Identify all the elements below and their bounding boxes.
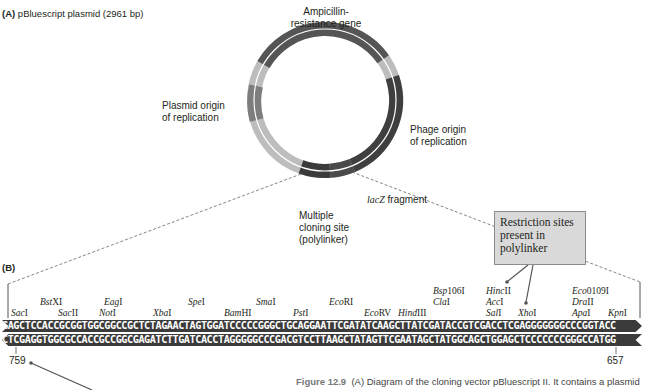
enzyme-hindiii: HindIII (398, 308, 427, 318)
pointer-line-xhoi (526, 265, 533, 302)
enzyme-psti: PstI (293, 308, 308, 318)
phage-ori-segment (352, 77, 396, 165)
callout-restriction-sites: Restriction sites present in polylinker (494, 211, 586, 265)
enzyme-kpni-suffix: I (624, 308, 627, 318)
enzyme-smai: SmaI (256, 297, 276, 307)
enzyme-noti-suffix: I (113, 308, 116, 318)
enzyme-clai-suffix: I (447, 297, 450, 307)
enzyme-eagi: EagI (104, 297, 122, 307)
enzyme-saci-italic: Sac (11, 308, 25, 318)
enzyme-eco0109i: Eco0109I (572, 286, 609, 296)
callout-line2: present in (500, 229, 580, 242)
enzyme-bsp106i-italic: Bsp (433, 286, 447, 296)
label-plasmid-origin: Plasmid origin of replication (162, 100, 225, 124)
enzyme-smai-suffix: I (272, 297, 275, 307)
enzyme-ecorv: EcoRV (364, 308, 391, 318)
label-ampicillin-line2: resistance gene (280, 18, 372, 30)
enzyme-spei-italic: Spe (188, 297, 202, 307)
enzyme-saci: SacI (11, 308, 28, 318)
label-ampicillin-line1: Ampicillin- (288, 6, 364, 18)
pointer-dot-xhoi (524, 301, 528, 305)
caption-figure-number: Figure 12.9 (296, 376, 346, 387)
label-lacz-rest: fragment (385, 194, 427, 205)
enzyme-eco0109i-italic: Eco (572, 286, 587, 296)
panel-a-label: (A) (2, 8, 15, 19)
enzyme-xbai: XbaI (153, 308, 171, 318)
label-mcs-line2: cloning site (299, 222, 349, 234)
label-ampicillin: Ampicillin- resistance gene (288, 6, 364, 30)
enzyme-bamhi: BamHI (224, 308, 251, 318)
label-phage-origin-line2: of replication (410, 136, 467, 148)
enzyme-eco0109i-suffix: 0109I (587, 286, 609, 296)
enzyme-kpni-italic: Kpn (608, 308, 624, 318)
panel-b-label: (B) (2, 262, 15, 273)
enzyme-acci-italic: Acc (486, 297, 500, 307)
label-mcs-line1: Multiple (299, 210, 349, 222)
pointer-dot-hincii (505, 280, 509, 284)
enzyme-hincii-suffix: II (504, 286, 510, 296)
enzyme-xhoi-suffix: I (533, 308, 536, 318)
enzyme-eagi-italic: Eag (104, 297, 119, 307)
caption-text: (A) Diagram of the cloning vector pBlues… (351, 376, 639, 387)
ampicillin-segment (264, 29, 384, 65)
enzyme-sali-italic: Sal (486, 308, 498, 318)
enzyme-hindiii-italic: Hind (398, 308, 417, 318)
panel-a-title: (A) pBluescript plasmid (2961 bp) (2, 8, 144, 19)
enzyme-hincii: HincII (486, 286, 511, 296)
position-657: 657 (607, 355, 624, 366)
enzyme-sali: SalI (486, 308, 501, 318)
label-mcs: Multiple cloning site (polylinker) (299, 210, 349, 246)
enzyme-bsp106i-suffix: 106I (447, 286, 464, 296)
label-plasmid-origin-line1: Plasmid origin (162, 100, 225, 112)
enzyme-apai: ApaI (572, 308, 590, 318)
enzyme-eagi-suffix: I (119, 297, 122, 307)
dna-bottom-strand: CTCGAGGTGGCGCCACCGCCGGCGAGATCTTGATCACCTA… (2, 334, 642, 346)
pointer-line-759 (31, 363, 92, 390)
enzyme-ecori-italic: Eco (329, 297, 344, 307)
enzyme-acci: AccI (486, 297, 503, 307)
enzyme-bamhi-suffix: HI (241, 308, 251, 318)
enzyme-draii-suffix: II (587, 297, 593, 307)
enzyme-apai-italic: Apa (572, 308, 587, 318)
label-mcs-line3: (polylinker) (299, 234, 349, 246)
enzyme-sacii-suffix: II (72, 308, 78, 318)
enzyme-xbai-italic: Xba (153, 308, 168, 318)
enzyme-kpni: KpnI (608, 308, 627, 318)
zoom-line-left (8, 174, 301, 284)
enzyme-clai: ClaI (433, 297, 450, 307)
enzyme-apai-suffix: I (587, 308, 590, 318)
callout-line3: polylinker (500, 242, 580, 255)
position-759: 759 (9, 355, 26, 366)
label-phage-origin: Phage origin of replication (410, 124, 467, 148)
enzyme-noti-italic: Not (99, 308, 113, 318)
enzyme-bstxi: BstXI (40, 297, 62, 307)
enzyme-ecorv-suffix: RV (379, 308, 391, 318)
enzyme-draii: DraII (572, 297, 594, 307)
enzyme-hindiii-suffix: III (417, 308, 427, 318)
enzyme-bamhi-italic: Bam (224, 308, 241, 318)
enzyme-sacii: SacII (58, 308, 78, 318)
enzyme-saci-suffix: I (25, 308, 28, 318)
enzyme-xhoi: XhoI (518, 308, 536, 318)
enzyme-clai-italic: Cla (433, 297, 447, 307)
plasmid-ring (254, 29, 396, 171)
enzyme-xbai-suffix: I (168, 308, 171, 318)
dna-top-strand: GAGCTCCACCGCGGTGGCGGCCGCTCTAGAACTAGTGGAT… (2, 320, 642, 332)
enzyme-smai-italic: Sma (256, 297, 272, 307)
enzyme-bsp106i: Bsp106I (433, 286, 465, 296)
enzyme-ecori: EcoRI (329, 297, 353, 307)
figure-caption: Figure 12.9 (A) Diagram of the cloning v… (296, 376, 640, 387)
enzyme-ecorv-italic: Eco (364, 308, 379, 318)
enzyme-hincii-italic: Hinc (486, 286, 504, 296)
enzyme-draii-italic: Dra (572, 297, 587, 307)
enzyme-acci-suffix: I (500, 297, 503, 307)
plasmid-title: pBluescript plasmid (2961 bp) (18, 8, 144, 19)
label-lacz-fragment: lacZ fragment (367, 194, 427, 206)
enzyme-noti: NotI (99, 308, 116, 318)
enzyme-bstxi-suffix: XI (52, 297, 62, 307)
enzyme-xhoi-italic: Xho (518, 308, 533, 318)
enzyme-spei-suffix: I (202, 297, 205, 307)
enzyme-psti-suffix: I (305, 308, 308, 318)
enzyme-psti-italic: Pst (293, 308, 305, 318)
callout-line1: Restriction sites (500, 216, 580, 229)
